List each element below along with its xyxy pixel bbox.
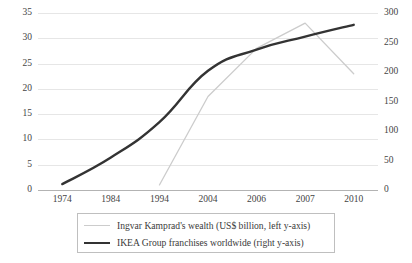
- axis-baseline: [38, 190, 378, 191]
- y-left-tick-label: 5: [2, 160, 32, 170]
- x-tick-label: 1984: [89, 195, 133, 205]
- y-left-tick-label: 30: [2, 33, 32, 43]
- legend-label-franchises: IKEA Group franchises worldwide (right y…: [117, 238, 304, 248]
- y-right-tick-label: 150: [384, 97, 412, 107]
- legend-item-franchises: IKEA Group franchises worldwide (right y…: [84, 234, 328, 251]
- legend-swatch-line-icon: [84, 225, 110, 226]
- series-line-franchises: [62, 25, 353, 184]
- y-right-tick-label: 200: [384, 67, 412, 77]
- y-right-tick-label: 250: [384, 38, 412, 48]
- y-left-tick-label: 15: [2, 109, 32, 119]
- y-left-tick-label: 0: [2, 185, 32, 195]
- series-line-wealth: [159, 23, 353, 185]
- plot-area: [38, 13, 378, 190]
- legend-label-wealth: Ingvar Kamprad's wealth (US$ billion, le…: [117, 221, 310, 231]
- x-tick-label: 2006: [235, 195, 279, 205]
- y-left-tick-label: 20: [2, 84, 32, 94]
- legend-swatch-line-icon: [84, 242, 110, 244]
- y-left-tick-label: 25: [2, 59, 32, 69]
- y-right-tick-label: 300: [384, 8, 412, 18]
- x-tick-label: 2007: [283, 195, 327, 205]
- x-tick-label: 1994: [137, 195, 181, 205]
- y-right-tick-label: 0: [384, 185, 412, 195]
- y-right-tick-label: 50: [384, 156, 412, 166]
- series-lines: [38, 13, 378, 190]
- x-tick-label: 2010: [332, 195, 376, 205]
- legend-item-wealth: Ingvar Kamprad's wealth (US$ billion, le…: [84, 217, 328, 234]
- y-left-tick-label: 10: [2, 134, 32, 144]
- x-tick-label: 2004: [186, 195, 230, 205]
- chart-container: 05101520253035 050100150200250300 197419…: [0, 0, 412, 263]
- y-right-tick-label: 100: [384, 126, 412, 136]
- x-tick-label: 1974: [40, 195, 84, 205]
- y-left-tick-label: 35: [2, 8, 32, 18]
- legend: Ingvar Kamprad's wealth (US$ billion, le…: [77, 213, 335, 253]
